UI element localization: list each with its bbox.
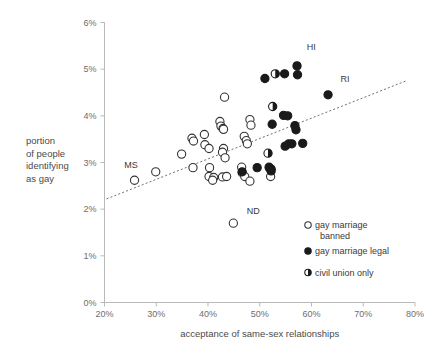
x-tick-label: 20% (95, 309, 113, 319)
data-point-legal (324, 91, 332, 99)
x-tick-label: 60% (302, 309, 320, 319)
x-tick-label: 80% (406, 309, 424, 319)
legend-label-continued: banned (320, 231, 350, 241)
data-point-banned (229, 219, 237, 227)
y-axis-title-line: as gay (26, 173, 54, 184)
point-annotations: MSNDHIRI (124, 42, 349, 215)
y-axis-ticks: 0%1%2%3%4%5%6% (83, 18, 104, 308)
y-tick-label: 2% (83, 204, 96, 214)
annotation-ms: MS (124, 160, 138, 170)
data-point-banned (246, 177, 254, 185)
y-tick-label: 0% (83, 298, 96, 308)
data-point-banned (220, 93, 228, 101)
data-point-banned (189, 164, 197, 172)
data-point-legal (284, 112, 292, 120)
data-point-banned (205, 144, 213, 152)
annotation-nd: ND (247, 206, 260, 216)
data-point-legal (280, 70, 288, 78)
data-point-banned (219, 125, 227, 133)
y-axis-title-line: identifying (26, 160, 69, 171)
legend-label: gay marriage (315, 220, 368, 230)
data-point-banned (130, 176, 138, 184)
data-point-banned (223, 172, 231, 180)
y-axis-title: portionof peopleidentifyingas gay (26, 135, 69, 184)
data-point-banned (152, 168, 160, 176)
x-tick-label: 70% (354, 309, 372, 319)
x-axis-ticks: 20%30%40%50%60%70%80% (95, 303, 424, 319)
data-point-legal (267, 167, 275, 175)
data-point-legal (268, 120, 276, 128)
data-point-banned (178, 150, 186, 158)
trend-line (107, 81, 407, 199)
data-point-legal (238, 168, 246, 176)
data-point-civil-union (271, 70, 279, 78)
y-tick-label: 3% (83, 158, 96, 168)
x-tick-label: 40% (199, 309, 217, 319)
data-point-civil-union (269, 102, 277, 110)
data-point-legal (293, 62, 301, 70)
legend-label: gay marriage legal (315, 246, 389, 256)
y-axis-title-line: of people (26, 148, 65, 159)
x-tick-label: 50% (251, 309, 269, 319)
data-point-banned (189, 137, 197, 145)
legend-marker-open-circle (305, 222, 311, 228)
data-point-banned (247, 121, 255, 129)
y-tick-label: 4% (83, 111, 96, 121)
data-point-banned (243, 140, 251, 148)
data-point-legal (261, 74, 269, 82)
data-point-legal (288, 140, 296, 148)
data-point-legal (293, 71, 301, 79)
data-point-legal (253, 164, 261, 172)
chart-legend: gay marriagebannedgay marriage legalcivi… (305, 220, 389, 278)
legend-marker-filled-circle (305, 248, 311, 254)
data-point-legal (292, 126, 300, 134)
data-point-legal (299, 139, 307, 147)
y-tick-label: 6% (83, 18, 96, 28)
scatter-chart: 0%1%2%3%4%5%6% 20%30%40%50%60%70%80% MSN… (0, 0, 435, 355)
plot-area: 0%1%2%3%4%5%6% 20%30%40%50%60%70%80% MSN… (0, 0, 435, 355)
y-tick-label: 5% (83, 64, 96, 74)
annotation-hi: HI (307, 42, 316, 52)
data-point-banned (221, 154, 229, 162)
legend-label: civil union only (315, 268, 374, 278)
data-point-civil-union (264, 149, 272, 157)
y-tick-label: 1% (83, 251, 96, 261)
data-point-banned (209, 176, 217, 184)
annotation-ri: RI (340, 74, 349, 84)
y-axis-title-line: portion (26, 135, 55, 146)
x-tick-label: 30% (147, 309, 165, 319)
data-point-banned (205, 164, 213, 172)
data-point-banned (200, 130, 208, 138)
x-axis-title: acceptance of same-sex relationships (180, 328, 339, 339)
